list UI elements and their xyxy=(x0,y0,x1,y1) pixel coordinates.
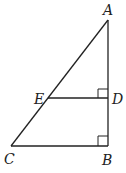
label-b: B xyxy=(101,152,112,168)
label-d: D xyxy=(111,91,123,107)
label-a: A xyxy=(101,2,113,18)
label-c: C xyxy=(4,151,15,167)
right-angle-marker-b xyxy=(98,136,108,146)
label-e: E xyxy=(33,91,44,107)
right-angle-marker-d xyxy=(98,89,108,98)
segment-ca xyxy=(11,20,108,146)
triangle-diagram: A D E C B xyxy=(0,0,126,173)
